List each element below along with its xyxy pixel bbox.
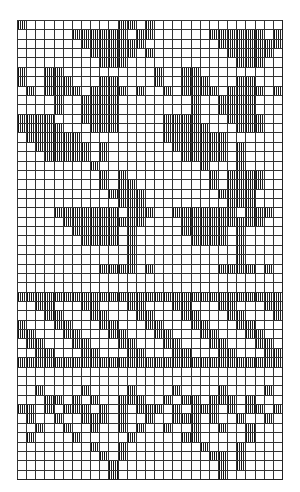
empty-stitch-cell: [63, 451, 72, 460]
empty-stitch-cell: [26, 39, 35, 48]
empty-stitch-cell: [245, 451, 254, 460]
empty-stitch-cell: [118, 301, 127, 310]
empty-stitch-cell: [163, 460, 172, 469]
empty-stitch-cell: [72, 161, 81, 170]
filled-stitch-cell: [72, 432, 81, 441]
filled-stitch-cell: [236, 254, 245, 263]
empty-stitch-cell: [136, 338, 145, 347]
empty-stitch-cell: [236, 207, 245, 216]
filled-stitch-cell: [26, 413, 35, 422]
empty-stitch-cell: [163, 310, 172, 319]
empty-stitch-cell: [218, 432, 227, 441]
empty-stitch-cell: [264, 170, 273, 179]
empty-stitch-cell: [35, 189, 44, 198]
empty-stitch-cell: [273, 123, 282, 132]
empty-stitch-cell: [191, 39, 200, 48]
filled-stitch-cell: [108, 217, 117, 226]
empty-stitch-cell: [26, 442, 35, 451]
filled-stitch-cell: [255, 207, 264, 216]
filled-stitch-cell: [218, 451, 227, 460]
empty-stitch-cell: [273, 198, 282, 207]
empty-stitch-cell: [35, 442, 44, 451]
empty-stitch-cell: [35, 217, 44, 226]
empty-stitch-cell: [209, 282, 218, 291]
filled-stitch-cell: [227, 48, 236, 57]
empty-stitch-cell: [227, 245, 236, 254]
filled-stitch-cell: [227, 29, 236, 38]
filled-stitch-cell: [236, 198, 245, 207]
filled-stitch-cell: [236, 48, 245, 57]
empty-stitch-cell: [127, 170, 136, 179]
empty-stitch-cell: [255, 395, 264, 404]
empty-stitch-cell: [245, 413, 254, 422]
empty-stitch-cell: [154, 123, 163, 132]
empty-stitch-cell: [127, 442, 136, 451]
empty-stitch-cell: [236, 367, 245, 376]
filled-stitch-cell: [236, 170, 245, 179]
empty-stitch-cell: [209, 95, 218, 104]
filled-stitch-cell: [108, 39, 117, 48]
filled-stitch-cell: [44, 142, 53, 151]
empty-stitch-cell: [118, 385, 127, 394]
filled-stitch-cell: [108, 57, 117, 66]
empty-stitch-cell: [72, 385, 81, 394]
empty-stitch-cell: [136, 95, 145, 104]
filled-stitch-cell: [227, 86, 236, 95]
empty-stitch-cell: [90, 264, 99, 273]
filled-stitch-cell: [200, 357, 209, 366]
filled-stitch-cell: [154, 320, 163, 329]
filled-stitch-cell: [145, 264, 154, 273]
empty-stitch-cell: [236, 432, 245, 441]
filled-stitch-cell: [127, 189, 136, 198]
empty-stitch-cell: [218, 273, 227, 282]
empty-stitch-cell: [26, 320, 35, 329]
empty-stitch-cell: [90, 132, 99, 141]
empty-stitch-cell: [218, 20, 227, 29]
empty-stitch-cell: [17, 226, 26, 235]
empty-stitch-cell: [17, 179, 26, 188]
empty-stitch-cell: [154, 86, 163, 95]
empty-stitch-cell: [127, 451, 136, 460]
empty-stitch-cell: [245, 348, 254, 357]
filled-stitch-cell: [145, 404, 154, 413]
empty-stitch-cell: [227, 282, 236, 291]
empty-stitch-cell: [227, 367, 236, 376]
filled-stitch-cell: [236, 189, 245, 198]
empty-stitch-cell: [136, 235, 145, 244]
empty-stitch-cell: [264, 95, 273, 104]
empty-stitch-cell: [255, 132, 264, 141]
filled-stitch-cell: [90, 123, 99, 132]
filled-stitch-cell: [154, 292, 163, 301]
empty-stitch-cell: [245, 470, 254, 479]
empty-stitch-cell: [54, 226, 63, 235]
empty-stitch-cell: [255, 254, 264, 263]
empty-stitch-cell: [35, 273, 44, 282]
filled-stitch-cell: [118, 423, 127, 432]
empty-stitch-cell: [181, 104, 190, 113]
empty-stitch-cell: [209, 67, 218, 76]
empty-stitch-cell: [191, 273, 200, 282]
empty-stitch-cell: [264, 189, 273, 198]
filled-stitch-cell: [200, 404, 209, 413]
filled-stitch-cell: [108, 235, 117, 244]
filled-stitch-cell: [54, 310, 63, 319]
empty-stitch-cell: [26, 310, 35, 319]
empty-stitch-cell: [264, 310, 273, 319]
filled-stitch-cell: [209, 217, 218, 226]
filled-stitch-cell: [136, 39, 145, 48]
filled-stitch-cell: [81, 301, 90, 310]
filled-stitch-cell: [90, 86, 99, 95]
filled-stitch-cell: [44, 357, 53, 366]
empty-stitch-cell: [108, 151, 117, 160]
empty-stitch-cell: [273, 338, 282, 347]
empty-stitch-cell: [200, 179, 209, 188]
filled-stitch-cell: [90, 114, 99, 123]
filled-stitch-cell: [54, 123, 63, 132]
empty-stitch-cell: [81, 282, 90, 291]
empty-stitch-cell: [81, 376, 90, 385]
filled-stitch-cell: [118, 20, 127, 29]
filled-stitch-cell: [227, 348, 236, 357]
filled-stitch-cell: [81, 29, 90, 38]
filled-stitch-cell: [154, 329, 163, 338]
empty-stitch-cell: [172, 423, 181, 432]
